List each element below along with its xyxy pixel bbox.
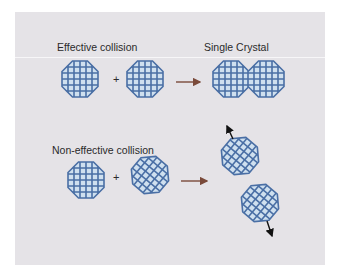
motion-arrow-down bbox=[267, 221, 272, 236]
crystal-aligned-1 bbox=[60, 59, 100, 99]
motion-arrow-up bbox=[227, 126, 233, 139]
single-crystal-fused bbox=[211, 59, 286, 99]
crystal-aligned-3 bbox=[66, 160, 106, 200]
crystal-bounced-down bbox=[232, 175, 288, 231]
collision-diagram bbox=[0, 0, 343, 277]
crystal-rotated-4 bbox=[122, 147, 178, 203]
crystal-aligned-2 bbox=[125, 59, 165, 99]
crystal-bounced-up bbox=[212, 128, 268, 184]
